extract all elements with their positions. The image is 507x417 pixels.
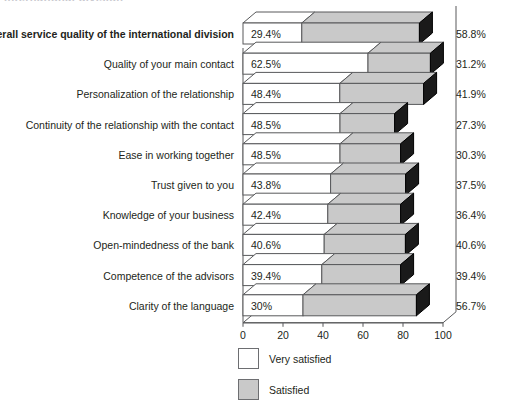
x-axis-tick-label: 40: [308, 329, 338, 341]
bar-value-label-secondary: 58.8%: [456, 28, 486, 40]
bar-value-label-secondary: 31.2%: [456, 58, 486, 70]
bar-value-label-secondary: 56.7%: [456, 300, 486, 312]
legend-item-satisfied: Satisfied: [238, 379, 331, 400]
legend-label-very-satisfied: Very satisfied: [269, 353, 331, 365]
bar-value-label-primary: 30%: [251, 300, 272, 312]
bar-value-label-primary: 48.4%: [251, 88, 281, 100]
x-axis-tick-label: 60: [348, 329, 378, 341]
x-axis-tick-label: 100: [428, 329, 458, 341]
bar-value-label-secondary: 39.4%: [456, 270, 486, 282]
bar-value-label-primary: 29.4%: [251, 28, 281, 40]
bar-value-label-primary: 62.5%: [251, 58, 281, 70]
bar-value-label-secondary: 41.9%: [456, 88, 486, 100]
bar-value-label-primary: 39.4%: [251, 270, 281, 282]
bar-value-label-primary: 48.5%: [251, 149, 281, 161]
bar-value-label-primary: 40.6%: [251, 239, 281, 251]
chart-legend: Very satisfied Satisfied: [238, 348, 331, 410]
x-axis-tick-label: 80: [388, 329, 418, 341]
bar-value-label-primary: 48.5%: [251, 119, 281, 131]
bar-value-label-primary: 43.8%: [251, 179, 281, 191]
bar-value-label-secondary: 27.3%: [456, 119, 486, 131]
bar-value-label-secondary: 30.3%: [456, 149, 486, 161]
legend-swatch-icon-satisfied: [238, 379, 259, 400]
bar-value-label-secondary: 40.6%: [456, 239, 486, 251]
bar-value-label-secondary: 36.4%: [456, 209, 486, 221]
legend-label-satisfied: Satisfied: [269, 384, 309, 396]
x-axis-tick-label: 0: [228, 329, 258, 341]
x-axis: [243, 323, 443, 327]
bar-value-label-primary: 42.4%: [251, 209, 281, 221]
legend-item-very-satisfied: Very satisfied: [238, 348, 331, 369]
secondary-value-column: 58.8%31.2%41.9%27.3%30.3%37.5%36.4%40.6%…: [456, 14, 507, 324]
legend-swatch-icon-very-satisfied: [238, 348, 259, 369]
bar-value-label-secondary: 37.5%: [456, 179, 486, 191]
x-axis-tick-label: 20: [268, 329, 298, 341]
